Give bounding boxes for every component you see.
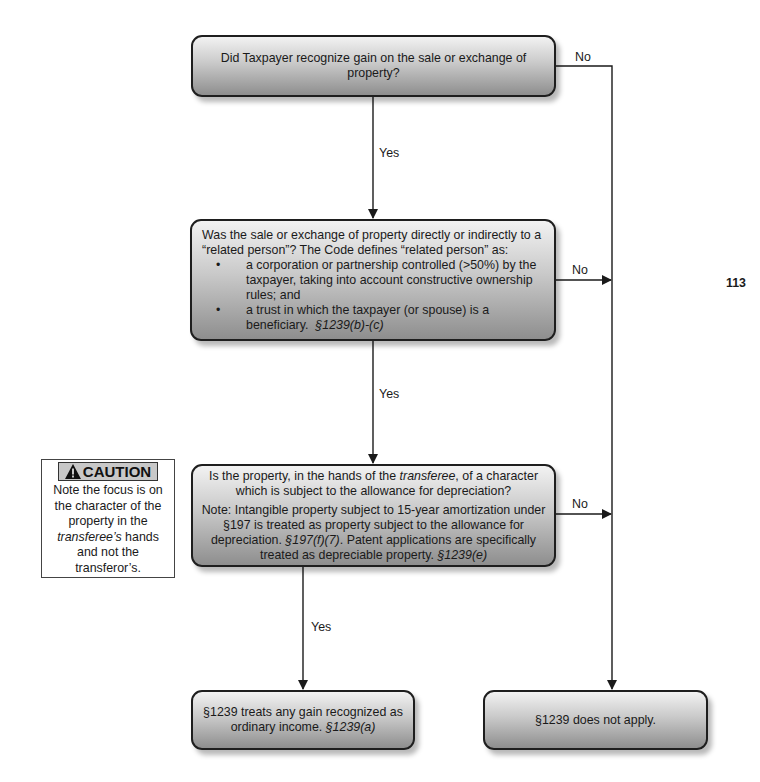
list-item: a corporation or partnership controlled … (246, 258, 546, 303)
result-node-ordinary-income: §1239 treats any gain recognized as ordi… (191, 690, 415, 750)
decision-note: Note: Intangible property subject to 15-… (199, 503, 548, 563)
list-item: a trust in which the taxpayer (or spouse… (246, 303, 546, 333)
citation: §1239(a) (326, 720, 376, 734)
edge-label-q2-no: No (572, 263, 588, 277)
result-text: §1239 does not apply. (485, 713, 706, 728)
citation: §1239(b)-(c) (315, 318, 383, 332)
caution-callout: CAUTION Note the focus is on the charact… (41, 459, 175, 578)
decision-text: Did Taxpayer recognize gain on the sale … (213, 51, 534, 81)
citation: §1239(e) (437, 548, 487, 562)
decision-intro: Was the sale or exchange of property dir… (202, 228, 546, 258)
page-number: 113 (726, 276, 746, 290)
result-node-does-not-apply: §1239 does not apply. (483, 690, 708, 750)
decision-node-depreciable-property: Is the property, in the hands of the tra… (191, 464, 556, 567)
decision-node-recognize-gain: Did Taxpayer recognize gain on the sale … (191, 35, 556, 97)
caution-text: Note the focus is on the character of th… (42, 483, 174, 576)
decision-question: Is the property, in the hands of the tra… (199, 469, 548, 499)
caution-title: CAUTION (83, 463, 151, 480)
warning-triangle-icon (65, 464, 81, 479)
caution-header: CAUTION (58, 462, 158, 481)
edge-label-q1-yes: Yes (379, 146, 399, 160)
edge-label-q2-yes: Yes (379, 387, 399, 401)
edge-label-q3-yes: Yes (311, 620, 331, 634)
citation: §197(f)(7) (285, 533, 339, 547)
edge-label-q1-no: No (575, 50, 591, 64)
edge-label-q3-no: No (572, 497, 588, 511)
decision-node-related-person: Was the sale or exchange of property dir… (190, 219, 556, 341)
related-person-list: a corporation or partnership controlled … (202, 258, 546, 333)
